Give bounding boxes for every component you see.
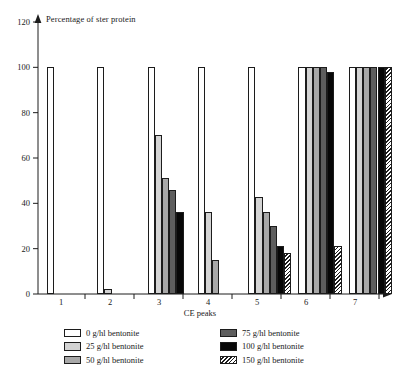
- legend-swatch-75-icon: [220, 329, 237, 338]
- chart-legend: 0 g/hl bentonite 25 g/hl bentonite 50 g/…: [64, 326, 384, 368]
- legend-item-50: 50 g/hl bentonite: [64, 353, 144, 367]
- bar-peak5-25ghl: [255, 197, 262, 294]
- bar-group-5: [239, 22, 289, 294]
- bar-peak3-25ghl: [155, 135, 162, 294]
- xtick-label-7: 7: [345, 297, 365, 307]
- legend-label-75: 75 g/hl bentonite: [242, 329, 300, 338]
- xtick-label-2: 2: [100, 297, 120, 307]
- bar-peak3-75ghl: [169, 190, 176, 294]
- legend-label-50: 50 g/hl bentonite: [86, 356, 144, 365]
- legend-swatch-100-icon: [220, 342, 237, 351]
- legend-column-right: 75 g/hl bentonite 100 g/hl bentonite 150…: [220, 326, 304, 367]
- bar-group-6: [289, 22, 339, 294]
- x-axis-title: CE peaks: [0, 308, 400, 318]
- bar-peak5-100ghl: [277, 246, 284, 294]
- bar-peak6-75ghl: [320, 67, 327, 294]
- legend-item-0: 0 g/hl bentonite: [64, 326, 144, 340]
- bar-group-7: [340, 22, 390, 294]
- bar-peak7-75ghl: [370, 67, 377, 294]
- bar-peak6-50ghl: [313, 67, 320, 294]
- bar-group-4: [189, 22, 239, 294]
- ytick-label-60: 60: [6, 153, 30, 163]
- bar-peak7-100ghl: [378, 67, 385, 294]
- legend-column-left: 0 g/hl bentonite 25 g/hl bentonite 50 g/…: [64, 326, 144, 367]
- bar-peak4-50ghl: [212, 260, 219, 294]
- bar-peak5-75ghl: [270, 226, 277, 294]
- xtick-label-3: 3: [149, 297, 169, 307]
- bar-peak7-50ghl: [363, 67, 370, 294]
- legend-item-75: 75 g/hl bentonite: [220, 326, 304, 340]
- legend-item-100: 100 g/hl bentonite: [220, 340, 304, 354]
- ytick-label-40: 40: [6, 198, 30, 208]
- xtick-label-4: 4: [198, 297, 218, 307]
- bar-group-1: [38, 22, 88, 294]
- bar-peak6-0ghl: [298, 67, 305, 294]
- bar-peak5-50ghl: [263, 212, 270, 294]
- bar-peak3-100ghl: [176, 212, 183, 294]
- legend-swatch-150-icon: [220, 356, 237, 365]
- bar-peak3-0ghl: [148, 67, 155, 294]
- legend-item-25: 25 g/hl bentonite: [64, 340, 144, 354]
- bars-layer: [38, 22, 390, 294]
- legend-swatch-0-icon: [64, 329, 81, 338]
- bar-peak7-150ghl: [385, 67, 392, 294]
- bar-peak1-0ghl: [47, 67, 54, 294]
- legend-label-0: 0 g/hl bentonite: [86, 329, 139, 338]
- bar-peak4-0ghl: [198, 67, 205, 294]
- bar-peak5-0ghl: [248, 67, 255, 294]
- ytick-label-100: 100: [6, 62, 30, 72]
- ytick-label-80: 80: [6, 108, 30, 118]
- bar-chart: Percentage of ster protein: [0, 0, 400, 371]
- bar-group-2: [88, 22, 138, 294]
- ytick-label-20: 20: [6, 244, 30, 254]
- legend-label-25: 25 g/hl bentonite: [86, 342, 144, 351]
- ytick-label-120: 120: [6, 17, 30, 27]
- legend-item-150: 150 g/hl bentonite: [220, 353, 304, 367]
- bar-peak7-0ghl: [349, 67, 356, 294]
- bar-peak4-25ghl: [205, 212, 212, 294]
- xtick-label-6: 6: [296, 297, 316, 307]
- bar-peak7-25ghl: [356, 67, 363, 294]
- bar-peak6-100ghl: [327, 72, 334, 294]
- legend-label-150: 150 g/hl bentonite: [242, 356, 304, 365]
- legend-swatch-50-icon: [64, 356, 81, 365]
- xtick-label-5: 5: [247, 297, 267, 307]
- bar-group-3: [139, 22, 189, 294]
- legend-label-100: 100 g/hl bentonite: [242, 342, 304, 351]
- bar-peak2-0ghl: [97, 67, 104, 294]
- bar-peak2-25ghl: [104, 289, 111, 294]
- legend-swatch-25-icon: [64, 342, 81, 351]
- bar-peak3-50ghl: [162, 178, 169, 294]
- ytick-label-0: 0: [6, 289, 30, 299]
- bar-peak6-25ghl: [306, 67, 313, 294]
- xtick-label-1: 1: [51, 297, 71, 307]
